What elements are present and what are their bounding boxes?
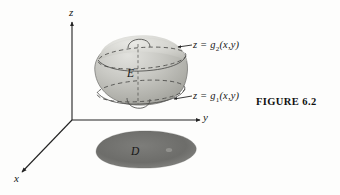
lower-surface-equation: z = g1(x,y) — [193, 91, 239, 104]
lower-surface-equation-args: (x,y) — [219, 90, 239, 101]
leader-line-upper — [178, 45, 192, 47]
upper-surface-equation-main: z = g — [193, 39, 216, 50]
x-axis-label: x — [14, 173, 19, 184]
upper-surface-equation-args: (x,y) — [219, 39, 239, 50]
figure-container: z y x E D z = g2(x,y) z = g1(x,y) FIGURE… — [0, 0, 340, 195]
figure-caption: FIGURE 6.2 — [256, 97, 317, 108]
z-axis-label: z — [69, 7, 73, 18]
solid-region-E — [95, 35, 188, 108]
shadow-highlight — [166, 148, 172, 152]
lower-surface-equation-main: z = g — [193, 90, 216, 101]
x-axis — [22, 120, 72, 172]
upper-surface-equation: z = g2(x,y) — [193, 40, 239, 53]
projection-region-label: D — [131, 146, 139, 158]
projection-region-D — [96, 131, 196, 168]
solid-region-label: E — [127, 68, 134, 80]
y-axis-label: y — [203, 112, 208, 123]
